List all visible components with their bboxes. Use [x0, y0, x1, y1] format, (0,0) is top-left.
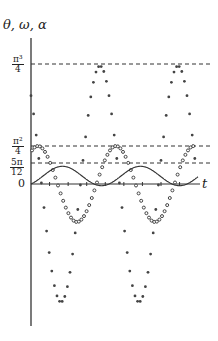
- ref-label-pi-cubed-over-4: π³ 4: [12, 55, 24, 74]
- ref-label-5pi-over-12: 5π 12: [10, 158, 24, 177]
- t-axis-label: t: [202, 176, 207, 191]
- y-axis-label: θ, ω, α: [3, 17, 47, 32]
- ref-label-pi-squared-over-4: π² 4: [12, 137, 24, 156]
- zero-label: 0: [18, 177, 25, 190]
- chart-plot: [0, 0, 218, 341]
